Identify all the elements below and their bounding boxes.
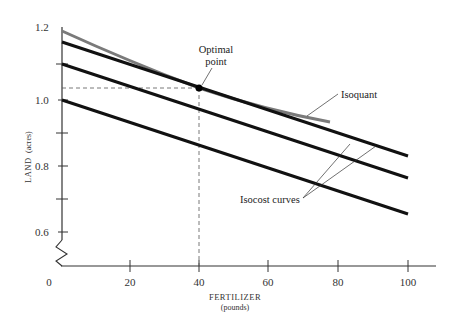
optimal-leader-line [202,68,212,85]
isocost-line-middle [62,64,408,178]
isocost-line-low [62,100,408,214]
y-axis [56,27,68,266]
x-axis-title: FERTILIZER [209,292,261,302]
x-tick-label: 60 [263,276,275,288]
optimal-point-label-line1: Optimal [199,44,233,55]
isoquant-label: Isoquant [341,89,377,100]
x-tick-label: 20 [125,276,137,288]
x-tick-label: 0 [46,276,52,288]
y-tick-label: 0.6 [35,226,49,238]
axis-break-icon [56,240,67,266]
y-axis-title: LAND [23,157,33,183]
x-axis-units: (pounds) [221,303,250,312]
isocost-label: Isocost curves [240,194,300,205]
isoquant-leader-line [307,94,338,116]
y-tick-label: 0.8 [35,160,49,172]
x-tick-label: 100 [400,276,417,288]
x-axis [61,260,436,272]
optimal-point-marker [196,85,203,92]
optimal-point-label-line2: point [205,56,227,67]
chart-canvas: 1.2 1.0 0.8 0.6 0 20 40 60 80 100 FERTIL… [0,0,459,326]
x-tick-label: 80 [333,276,345,288]
y-tick-label: 1.2 [35,21,49,33]
x-tick-label: 40 [194,276,206,288]
y-axis-title-group: LAND (acres) [23,131,33,183]
y-axis-units: (acres) [24,131,33,153]
y-tick-label: 1.0 [35,94,49,106]
